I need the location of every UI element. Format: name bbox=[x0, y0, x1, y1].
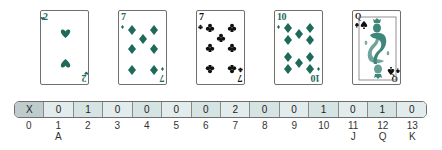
array-index: 7 bbox=[221, 120, 251, 131]
array-cell: 0 bbox=[191, 102, 220, 117]
card-7-clubs: 7 7 bbox=[196, 10, 245, 85]
array-cell: 0 bbox=[338, 102, 367, 117]
count-array: X 0 1 0 0 0 0 2 0 0 1 0 1 0 bbox=[14, 101, 427, 118]
array-index: 12Q bbox=[368, 120, 398, 142]
array-cell: 1 bbox=[308, 102, 337, 117]
array-index: 3 bbox=[103, 120, 133, 131]
array-index: 6 bbox=[191, 120, 221, 131]
array-index: 8 bbox=[250, 120, 280, 131]
array-cell: 1 bbox=[367, 102, 396, 117]
array-cell: 0 bbox=[249, 102, 278, 117]
array-index: 0 bbox=[14, 120, 44, 131]
card-10-diamonds: 10 10 bbox=[274, 10, 323, 85]
array-cell: X bbox=[15, 102, 43, 117]
face-label: J bbox=[351, 131, 356, 142]
club-icon bbox=[197, 11, 246, 86]
card-7-diamonds: 7 7 bbox=[118, 10, 167, 85]
array-index: 5 bbox=[162, 120, 192, 131]
array-index: 10 bbox=[309, 120, 339, 131]
array-index: 4 bbox=[132, 120, 162, 131]
array-cell: 0 bbox=[102, 102, 131, 117]
array-cell: 1 bbox=[73, 102, 102, 117]
array-cell: 0 bbox=[161, 102, 190, 117]
diamond-icon bbox=[275, 11, 324, 86]
array-cell: 0 bbox=[279, 102, 308, 117]
array-index: 9 bbox=[280, 120, 310, 131]
array-index: 13K bbox=[398, 120, 428, 142]
array-index: 1A bbox=[44, 120, 74, 142]
queen-figure-icon bbox=[353, 11, 402, 86]
array-cell: 0 bbox=[396, 102, 425, 117]
array-index: 11J bbox=[339, 120, 369, 142]
face-label: K bbox=[409, 131, 416, 142]
array-cell: 2 bbox=[220, 102, 249, 117]
diamond-icon bbox=[119, 11, 168, 86]
array-cell: 0 bbox=[132, 102, 161, 117]
array-index: 2 bbox=[73, 120, 103, 131]
face-label: A bbox=[55, 131, 62, 142]
face-label: Q bbox=[379, 131, 387, 142]
card-2-hearts: 2 2 bbox=[40, 10, 89, 85]
array-cell: 0 bbox=[43, 102, 72, 117]
card-queen-spades: Q Q bbox=[352, 10, 401, 85]
heart-icon bbox=[41, 11, 90, 86]
